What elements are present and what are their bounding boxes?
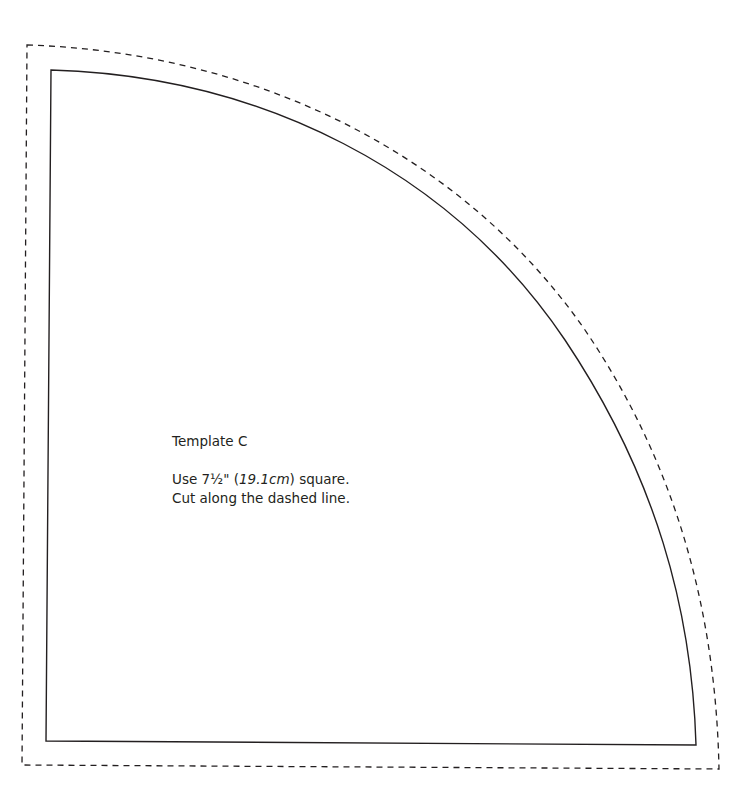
instruction-size-prefix: Use 7½" ( (172, 471, 239, 487)
instruction-size-suffix: ) square. (290, 471, 350, 487)
instruction-line-1: Use 7½" (19.1cm) square. (172, 470, 350, 489)
quarter-circle-template (0, 0, 754, 803)
dashed-cut-line (22, 45, 719, 769)
template-title: Template C (172, 432, 350, 451)
instruction-line-2: Cut along the dashed line. (172, 489, 350, 508)
solid-sew-line (46, 70, 696, 745)
instruction-size-metric: 19.1cm (239, 471, 290, 487)
template-label: Template C Use 7½" (19.1cm) square. Cut … (172, 432, 350, 508)
